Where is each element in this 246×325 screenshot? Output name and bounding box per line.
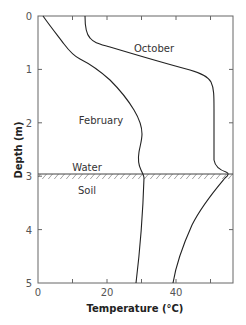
x-tick-20: 20 — [101, 287, 114, 298]
y-tick-2: 2 — [26, 118, 32, 129]
y-tick-0: 0 — [26, 11, 32, 22]
series-february-line — [43, 16, 144, 283]
water-soil-boundary — [38, 174, 233, 179]
y-tick-5: 5 — [26, 278, 32, 289]
label-february: February — [79, 115, 123, 126]
y-axis-ticks-right — [229, 69, 233, 229]
x-axis-title: Temperature (°C) — [87, 303, 184, 314]
y-tick-1: 1 — [26, 64, 32, 75]
x-tick-0: 0 — [35, 287, 41, 298]
y-tick-3: 3 — [26, 171, 32, 182]
x-axis-ticks-top — [73, 16, 211, 20]
x-tick-40: 40 — [170, 287, 183, 298]
label-water: Water — [72, 162, 102, 173]
series-october-line — [85, 16, 228, 283]
label-october: October — [134, 43, 175, 54]
plot-frame — [38, 16, 233, 283]
y-axis-ticks-left — [38, 69, 42, 229]
label-soil: Soil — [78, 185, 96, 196]
y-tick-4: 4 — [26, 225, 32, 236]
depth-temperature-chart: 0 1 2 3 4 5 0 20 40 Temperature (°C) Dep… — [0, 0, 246, 325]
y-axis-title: Depth (m) — [13, 121, 24, 178]
x-axis-ticks-bottom — [73, 279, 211, 283]
